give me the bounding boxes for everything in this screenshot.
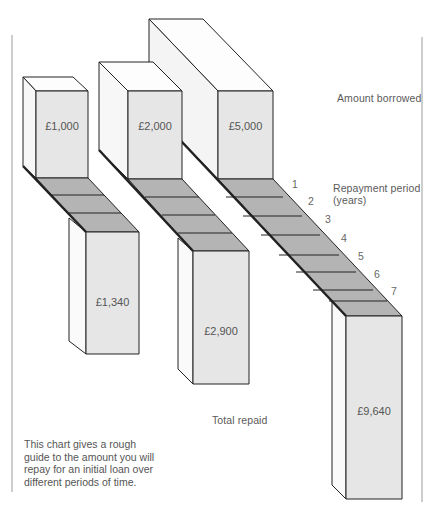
year-tick-3: 3 bbox=[325, 213, 331, 225]
repaid-value-2: £2,900 bbox=[193, 325, 249, 337]
loan-repayment-diagram bbox=[0, 0, 433, 506]
repaid-value-1: £1,340 bbox=[86, 296, 139, 308]
borrowed-value-2: £2,000 bbox=[128, 120, 182, 132]
repaid-value-3: £9,640 bbox=[346, 405, 402, 417]
borrowed-value-1: £1,000 bbox=[36, 120, 88, 132]
year-tick-1: 1 bbox=[292, 178, 298, 190]
year-tick-6: 6 bbox=[374, 268, 380, 280]
year-tick-5: 5 bbox=[358, 250, 364, 262]
year-tick-7: 7 bbox=[391, 285, 397, 297]
year-tick-2: 2 bbox=[308, 195, 314, 207]
repayment-period-label: Repayment period bbox=[333, 182, 420, 194]
total-repaid-label: Total repaid bbox=[212, 414, 267, 426]
amount-borrowed-label: Amount borrowed bbox=[337, 92, 421, 104]
chart-caption: This chart gives a rough guide to the am… bbox=[24, 438, 164, 488]
repayment-period-unit: (years) bbox=[333, 194, 366, 206]
year-tick-4: 4 bbox=[341, 232, 347, 244]
borrowed-value-3: £5,000 bbox=[218, 120, 273, 132]
